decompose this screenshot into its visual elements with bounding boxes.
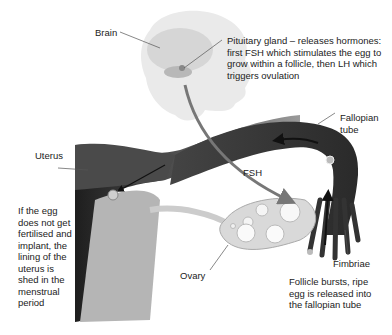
ovary-illustration [150,198,316,255]
label-fimbriae: Fimbriae [333,258,370,270]
label-fsh: FSH [243,167,262,179]
label-fallopian-tube: Fallopian tube [340,112,379,135]
label-ovulation: Follicle bursts, ripe egg is released in… [289,276,371,311]
label-menstruation: If the egg does not get fertilised and i… [18,205,72,309]
label-brain: Brain [95,27,117,39]
label-uterus: Uterus [35,150,63,162]
label-ovary: Ovary [180,270,205,282]
label-pituitary-gland: Pituitary gland – releases hormones: fir… [227,35,381,81]
